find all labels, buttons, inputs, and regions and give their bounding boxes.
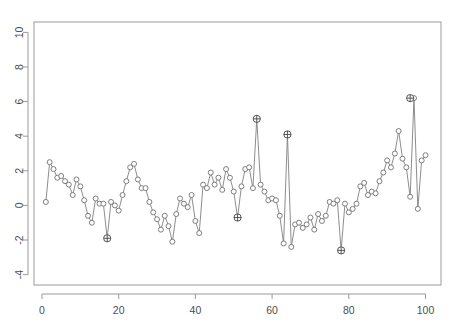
data-point — [373, 191, 378, 196]
data-point — [377, 179, 382, 184]
outlier-marker — [253, 115, 260, 122]
data-point — [220, 187, 225, 192]
time-series-plot: -4-20246810020406080100 — [0, 0, 450, 328]
y-axis-tick-label: 6 — [13, 99, 25, 105]
data-point — [66, 182, 71, 187]
y-axis-tick-label: 10 — [13, 26, 25, 38]
data-point — [342, 201, 347, 206]
data-point — [408, 194, 413, 199]
data-point — [143, 186, 148, 191]
outlier-marker — [234, 214, 241, 221]
data-point — [289, 244, 294, 249]
data-point — [396, 129, 401, 134]
y-axis-tick-label: 0 — [13, 202, 25, 208]
data-point — [404, 165, 409, 170]
data-point — [250, 186, 255, 191]
data-point — [296, 220, 301, 225]
data-point — [362, 180, 367, 185]
x-axis-tick-label: 20 — [113, 304, 125, 316]
data-point — [47, 160, 52, 165]
y-axis-tick-label: 4 — [13, 133, 25, 139]
data-point — [132, 161, 137, 166]
data-point — [273, 198, 278, 203]
outlier-marker — [104, 235, 111, 242]
data-point — [247, 165, 252, 170]
data-point — [178, 196, 183, 201]
x-axis-tick-label: 40 — [190, 304, 202, 316]
data-point — [258, 182, 263, 187]
data-point — [189, 193, 194, 198]
data-point — [193, 218, 198, 223]
data-point — [308, 215, 313, 220]
data-point — [197, 231, 202, 236]
data-point — [166, 224, 171, 229]
data-point — [262, 189, 267, 194]
data-point — [208, 170, 213, 175]
data-point — [316, 212, 321, 217]
data-point — [335, 198, 340, 203]
data-point — [239, 184, 244, 189]
y-axis-tick-label: -2 — [13, 235, 25, 244]
outlier-marker — [407, 95, 414, 102]
data-point — [350, 206, 355, 211]
data-point — [147, 199, 152, 204]
data-point — [224, 167, 229, 172]
data-point — [323, 213, 328, 218]
y-axis-tick-label: 8 — [13, 64, 25, 70]
data-point — [162, 213, 167, 218]
data-point — [51, 167, 56, 172]
data-point — [170, 239, 175, 244]
x-axis-tick-label: 60 — [266, 304, 278, 316]
data-point — [135, 177, 140, 182]
data-point — [124, 179, 129, 184]
plot-frame — [34, 22, 441, 285]
data-point — [281, 241, 286, 246]
data-point — [43, 199, 48, 204]
data-point — [116, 208, 121, 213]
outlier-marker — [284, 131, 291, 138]
x-axis-tick-label: 100 — [417, 304, 435, 316]
data-point — [212, 182, 217, 187]
data-point — [415, 206, 420, 211]
data-point — [158, 227, 163, 232]
data-point — [304, 222, 309, 227]
data-point — [174, 212, 179, 217]
data-point — [101, 201, 106, 206]
data-point — [419, 158, 424, 163]
data-point — [204, 186, 209, 191]
data-point — [388, 165, 393, 170]
chart-container: -4-20246810020406080100 — [0, 0, 450, 328]
data-point — [78, 184, 83, 189]
y-axis-tick-label: -4 — [13, 270, 25, 279]
data-point — [423, 153, 428, 158]
data-point — [216, 175, 221, 180]
data-point — [89, 220, 94, 225]
series-line — [46, 98, 426, 250]
outlier-marker — [338, 247, 345, 254]
series-markers — [43, 96, 428, 253]
data-point — [354, 201, 359, 206]
data-point — [93, 196, 98, 201]
data-point — [227, 175, 232, 180]
data-point — [155, 217, 160, 222]
data-point — [312, 227, 317, 232]
data-point — [381, 170, 386, 175]
data-point — [151, 210, 156, 215]
data-point — [59, 173, 64, 178]
data-point — [385, 158, 390, 163]
y-axis-tick-label: 2 — [13, 168, 25, 174]
outlier-markers — [104, 95, 414, 254]
x-axis-tick-label: 0 — [39, 304, 45, 316]
data-point — [319, 218, 324, 223]
data-point — [231, 189, 236, 194]
data-point — [74, 177, 79, 182]
data-point — [185, 205, 190, 210]
data-point — [120, 193, 125, 198]
data-point — [70, 193, 75, 198]
data-point — [400, 156, 405, 161]
data-point — [86, 213, 91, 218]
data-point — [277, 213, 282, 218]
data-point — [82, 198, 87, 203]
data-point — [392, 151, 397, 156]
data-point — [112, 203, 117, 208]
